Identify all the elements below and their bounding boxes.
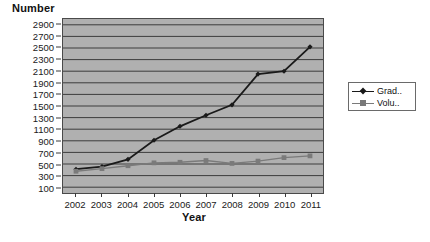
y-tick-mark — [56, 23, 61, 24]
legend-swatch-volu — [352, 99, 374, 108]
x-tick-mark — [259, 193, 260, 197]
y-tick-label: 2300 — [33, 54, 54, 65]
x-tick-mark — [101, 193, 102, 197]
y-tick-mark — [56, 129, 61, 130]
y-tick-label: 2500 — [33, 42, 54, 53]
line-chart: Number 290027002500230021001900170015001… — [0, 0, 430, 242]
y-tick-mark — [56, 35, 61, 36]
data-point — [282, 155, 287, 160]
y-tick-mark — [56, 164, 61, 165]
x-tick-mark — [128, 193, 129, 197]
diamond-marker-icon — [360, 88, 367, 95]
y-tick-label: 500 — [38, 159, 54, 170]
data-point — [256, 159, 261, 164]
x-tick-mark — [180, 193, 181, 197]
y-tick-label: 700 — [38, 147, 54, 158]
y-tick-label: 1900 — [33, 77, 54, 88]
y-tick-label: 2900 — [33, 18, 54, 29]
data-point — [100, 166, 105, 171]
y-tick-mark — [56, 47, 61, 48]
x-tick-label: 2008 — [222, 199, 243, 210]
x-tick-mark — [206, 193, 207, 197]
series-line-1 — [76, 47, 310, 169]
square-marker-icon — [360, 100, 366, 106]
y-tick-label: 2100 — [33, 65, 54, 76]
y-tick-mark — [56, 152, 61, 153]
x-tick-label: 2002 — [65, 199, 86, 210]
y-axis-title: Number — [12, 2, 55, 14]
data-point — [74, 169, 79, 174]
x-tick-label: 2010 — [274, 199, 295, 210]
x-tick-mark — [75, 193, 76, 197]
legend-item: Volu.. — [352, 97, 412, 109]
x-tick-label: 2005 — [143, 199, 164, 210]
legend-label-volu: Volu.. — [377, 98, 400, 109]
data-point — [126, 163, 131, 168]
x-tick-label: 2007 — [196, 199, 217, 210]
data-point — [178, 160, 183, 165]
y-tick-mark — [56, 70, 61, 71]
x-tick-label: 2004 — [117, 199, 138, 210]
data-point — [152, 160, 157, 165]
y-tick-mark — [56, 188, 61, 189]
y-tick-mark — [56, 82, 61, 83]
legend-swatch-grad — [352, 87, 374, 96]
y-tick-label: 2700 — [33, 30, 54, 41]
y-axis-tick-labels: 2900270025002300210019001700150013001100… — [0, 18, 58, 194]
data-point — [308, 154, 313, 159]
legend-item: Grad.. — [352, 85, 412, 97]
x-tick-label: 2009 — [248, 199, 269, 210]
x-tick-label: 2006 — [169, 199, 190, 210]
y-tick-mark — [56, 106, 61, 107]
plot-area — [62, 18, 324, 194]
y-tick-label: 1300 — [33, 112, 54, 123]
x-tick-label: 2011 — [301, 199, 321, 210]
y-tick-label: 100 — [38, 183, 54, 194]
data-point — [230, 161, 235, 166]
x-tick-mark — [154, 193, 155, 197]
x-axis-title: Year — [182, 211, 206, 223]
y-tick-label: 1700 — [33, 89, 54, 100]
x-tick-mark — [232, 193, 233, 197]
y-tick-mark — [56, 94, 61, 95]
x-tick-mark — [285, 193, 286, 197]
y-tick-mark — [56, 141, 61, 142]
x-tick-label: 2003 — [91, 199, 112, 210]
legend-label-grad: Grad.. — [377, 86, 402, 97]
y-tick-mark — [56, 176, 61, 177]
y-tick-mark — [56, 117, 61, 118]
series-lines — [63, 19, 323, 193]
y-tick-mark — [56, 59, 61, 60]
data-point — [203, 113, 208, 118]
y-tick-label: 900 — [38, 136, 54, 147]
y-tick-label: 300 — [38, 171, 54, 182]
data-point — [204, 158, 209, 163]
chart-legend: Grad.. Volu.. — [348, 82, 416, 111]
y-tick-label: 1100 — [34, 124, 54, 135]
x-tick-mark — [311, 193, 312, 197]
y-tick-label: 1500 — [33, 101, 54, 112]
